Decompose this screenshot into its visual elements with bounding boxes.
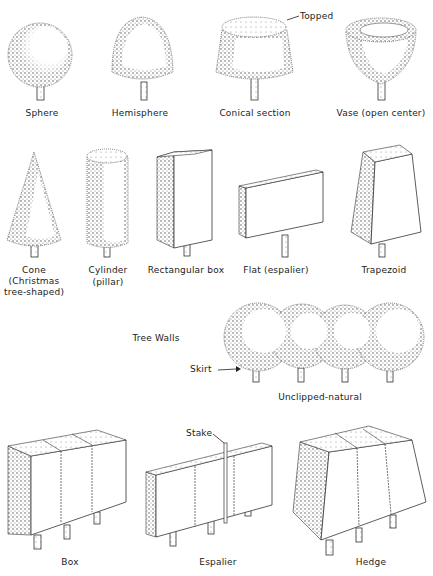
flat-espalier-shape: [239, 170, 323, 257]
hemisphere-shape: [112, 17, 173, 100]
sublabel-cone-christmas: (Christmas: [4, 276, 64, 287]
sublabel-cone-tree-shaped: tree-shaped): [4, 287, 64, 298]
section-title-tree-walls: Tree Walls: [126, 333, 186, 344]
label-trapezoid: Trapezoid: [352, 265, 416, 276]
hedge-shape: [293, 426, 426, 555]
espalier-hedge-shape: [146, 434, 272, 546]
label-cone: Cone: [4, 265, 64, 276]
label-cylinder: Cylinder: [80, 265, 136, 276]
label-box: Box: [50, 557, 90, 568]
rectangular-box-shape: [157, 150, 212, 256]
trapezoid-shape: [351, 145, 421, 257]
box-hedge-shape: [8, 430, 126, 549]
sphere-shape: [8, 23, 72, 100]
label-vase: Vase (open center): [330, 108, 432, 119]
label-sphere: Sphere: [14, 108, 70, 119]
callout-topped: Topped: [300, 11, 340, 22]
cylinder-shape: [87, 149, 128, 257]
callout-stake: Stake: [186, 428, 222, 439]
unclipped-natural-tree-wall: [218, 303, 424, 382]
vase-shape: [346, 18, 416, 100]
label-conical-section: Conical section: [212, 108, 298, 119]
sublabel-cylinder-pillar: (pillar): [80, 277, 136, 288]
label-rectangular-box: Rectangular box: [146, 265, 226, 276]
label-espalier: Espalier: [190, 557, 246, 568]
diagram-canvas: [0, 0, 433, 576]
cone-shape: [7, 152, 61, 257]
label-hedge: Hedge: [346, 557, 396, 568]
callout-skirt: Skirt: [190, 364, 218, 375]
conical-section-shape: [216, 16, 299, 100]
label-flat-espalier: Flat (espalier): [236, 265, 316, 276]
label-unclipped-natural: Unclipped-natural: [270, 392, 370, 403]
label-hemisphere: Hemisphere: [108, 108, 172, 119]
